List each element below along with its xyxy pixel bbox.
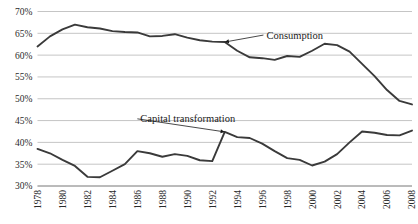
y-tick-label: 50%: [15, 94, 33, 104]
y-tick-label: 45%: [15, 116, 33, 126]
y-tick-label: 35%: [15, 160, 33, 170]
y-tick-label: 70%: [15, 7, 33, 17]
x-tick-label: 2006: [382, 190, 392, 209]
x-tick-label: 1990: [183, 190, 193, 209]
x-tick-label: 1996: [258, 190, 268, 209]
x-tick-label: 1980: [58, 190, 68, 209]
y-axis-tick-labels: 30%35%40%45%50%55%60%65%70%: [15, 7, 33, 192]
x-tick-label: 1988: [158, 190, 168, 209]
y-tick-label: 55%: [15, 72, 33, 82]
line-chart: 30%35%40%45%50%55%60%65%70% 197819801982…: [0, 0, 418, 224]
x-tick-label: 1984: [108, 190, 118, 209]
x-tick-label: 2004: [357, 190, 367, 209]
x-tick-label: 2008: [407, 190, 417, 209]
y-tick-label: 65%: [15, 29, 33, 39]
x-tick-label: 1982: [83, 190, 93, 209]
x-tick-label: 2002: [333, 190, 343, 209]
y-tick-label: 30%: [15, 181, 33, 191]
capital-transformation-annotation-label: Capital transformation: [140, 113, 236, 124]
chart-canvas: 30%35%40%45%50%55%60%65%70% 197819801982…: [0, 0, 418, 224]
x-tick-label: 1992: [208, 190, 218, 209]
x-tick-label: 1986: [133, 190, 143, 209]
y-tick-label: 40%: [15, 138, 33, 148]
x-tick-label: 2000: [308, 190, 318, 209]
x-tick-label: 1998: [283, 190, 293, 209]
y-tick-label: 60%: [15, 51, 33, 61]
consumption-annotation-label: Consumption: [266, 30, 323, 41]
x-tick-label: 1978: [33, 190, 43, 209]
x-tick-label: 1994: [233, 190, 243, 209]
